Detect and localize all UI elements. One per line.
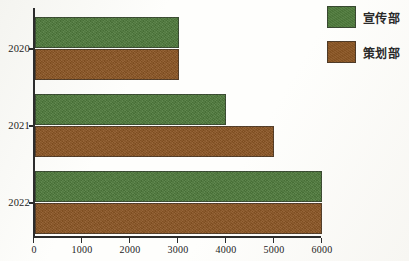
x-axis-label-1000: 1000 <box>72 244 93 255</box>
legend-label-xuanchuanbu: 宣传部 <box>363 9 400 26</box>
legend-item-xuanchuanbu: 宣传部 <box>327 6 407 28</box>
legend-item-cehuabu: 策划部 <box>327 41 407 63</box>
x-axis-label-6000: 6000 <box>312 244 333 255</box>
y-axis-label-2021: 2021 <box>8 120 30 131</box>
bar-2020-xuanchuanbu <box>35 17 179 48</box>
x-axis-tick <box>129 238 130 243</box>
x-axis-label-4000: 4000 <box>216 244 237 255</box>
x-axis-label-2000: 2000 <box>120 244 141 255</box>
x-axis-label-3000: 3000 <box>168 244 189 255</box>
x-axis-label-5000: 5000 <box>264 244 285 255</box>
chart-legend: 宣传部 策划部 <box>327 6 407 76</box>
bar-chart: 2020 2021 2022 0 1000 2000 3000 4000 500… <box>0 0 409 261</box>
bar-2021-cehuabu <box>35 126 274 157</box>
y-axis-label-2020: 2020 <box>8 43 30 54</box>
legend-swatch-icon <box>327 41 356 63</box>
bar-2022-cehuabu <box>35 203 322 234</box>
legend-label-cehuabu: 策划部 <box>363 44 400 61</box>
x-axis-tick <box>177 238 178 243</box>
bar-2021-xuanchuanbu <box>35 94 226 125</box>
x-axis-tick <box>33 238 34 243</box>
x-axis-label-0: 0 <box>31 244 36 255</box>
x-axis-tick <box>321 238 322 243</box>
y-axis-label-2022: 2022 <box>8 197 30 208</box>
x-axis-tick <box>225 238 226 243</box>
chart-page: 2020 2021 2022 0 1000 2000 3000 4000 500… <box>0 0 409 261</box>
legend-swatch-icon <box>327 6 356 28</box>
x-axis-tick <box>273 238 274 243</box>
x-axis-tick <box>81 238 82 243</box>
bar-2020-cehuabu <box>35 49 179 80</box>
bar-2022-xuanchuanbu <box>35 171 322 202</box>
